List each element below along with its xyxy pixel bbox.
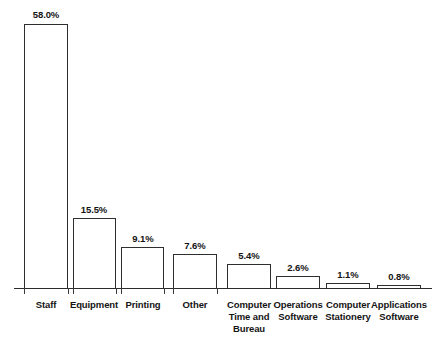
- bar-value-other: 7.6%: [163, 241, 227, 251]
- axis-tick: [164, 288, 165, 294]
- bar-value-computer-time-and-bureau: 5.4%: [217, 251, 281, 261]
- axis-tick: [68, 288, 69, 294]
- axis-tick: [24, 288, 25, 294]
- bar-computer-time-and-bureau: [227, 264, 271, 289]
- bar-value-staff: 58.0%: [14, 10, 78, 20]
- bar-equipment: [73, 218, 116, 289]
- bar-value-equipment: 15.5%: [62, 205, 126, 215]
- axis-tick: [121, 288, 122, 294]
- bar-value-applications-software: 0.8%: [367, 272, 431, 282]
- bar-staff: [24, 24, 68, 289]
- bar-chart: 58.0% 15.5% 9.1% 7.6% 5.4% 2.6% 1.1% 0.8…: [0, 0, 441, 350]
- category-label-applications-software: Applications Software: [364, 299, 434, 323]
- axis-tick: [173, 288, 174, 294]
- axis-tick: [116, 288, 117, 294]
- axis-tick: [73, 288, 74, 294]
- bar-printing: [121, 247, 164, 289]
- axis-tick: [217, 288, 218, 294]
- bar-other: [173, 254, 217, 289]
- x-axis-line: [14, 288, 432, 289]
